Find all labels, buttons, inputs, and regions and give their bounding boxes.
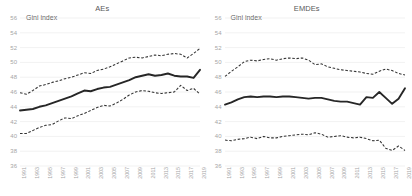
- y-tick-label: 36: [215, 163, 222, 169]
- series-line-solid: [20, 70, 200, 111]
- chart-panel-emdes: EMDEs Gini index 3638404244464850525456 …: [205, 0, 410, 196]
- chart-svg-emdes: [225, 18, 405, 166]
- series-line-solid: [225, 88, 405, 104]
- series-line-dashed: [225, 133, 405, 151]
- y-tick-label: 38: [215, 148, 222, 154]
- y-tick-label: 54: [10, 30, 17, 36]
- y-tick-label: 56: [10, 15, 17, 21]
- x-tick-label: 2005: [112, 167, 117, 179]
- x-tick-label: 2017: [394, 167, 399, 179]
- chart-svg-aes: [20, 18, 200, 166]
- x-tick-label: 1995: [252, 167, 257, 179]
- y-axis-labels-aes: 3638404244464850525456: [0, 18, 18, 166]
- x-tick-label: 1995: [48, 167, 53, 179]
- x-tick-label: 2009: [138, 167, 143, 179]
- y-tick-label: 42: [215, 119, 222, 125]
- y-tick-label: 52: [10, 45, 17, 51]
- x-tick-label: 2011: [355, 167, 360, 178]
- x-tick-label: 2015: [176, 167, 181, 179]
- y-tick-label: 50: [10, 59, 17, 65]
- y-tick-label: 54: [215, 30, 222, 36]
- x-tick-label: 2003: [99, 167, 104, 179]
- x-tick-label: 1999: [74, 167, 79, 179]
- x-tick-label: 1993: [35, 167, 40, 179]
- plot-area-aes: [20, 18, 200, 166]
- x-tick-label: 1993: [240, 167, 245, 179]
- x-tick-label: 1999: [278, 167, 283, 179]
- y-tick-label: 36: [10, 163, 17, 169]
- chart-title-emdes: EMDEs: [205, 4, 410, 13]
- y-tick-label: 52: [215, 45, 222, 51]
- x-axis-labels-aes: 1991199319951997199920012003200520072009…: [20, 167, 200, 196]
- x-tick-label: 1991: [22, 167, 27, 179]
- x-tick-label: 1997: [61, 167, 66, 179]
- x-tick-label: 2013: [164, 167, 169, 179]
- y-tick-label: 44: [10, 104, 17, 110]
- x-tick-label: 2003: [304, 167, 309, 179]
- x-axis-labels-emdes: 1991199319951997199920012003200520072009…: [225, 167, 405, 196]
- y-tick-label: 48: [215, 74, 222, 80]
- y-tick-label: 48: [10, 74, 17, 80]
- y-axis-labels-emdes: 3638404244464850525456: [205, 18, 223, 166]
- x-tick-label: 2007: [330, 167, 335, 179]
- x-tick-label: 2001: [291, 167, 296, 179]
- y-tick-label: 38: [10, 148, 17, 154]
- x-tick-label: 2013: [368, 167, 373, 179]
- x-tick-label: 2011: [151, 167, 156, 178]
- y-tick-label: 40: [215, 133, 222, 139]
- y-tick-label: 42: [10, 119, 17, 125]
- x-tick-label: 2015: [381, 167, 386, 179]
- x-tick-label: 1991: [227, 167, 232, 179]
- chart-panel-aes: AEs Gini index 3638404244464850525456 19…: [0, 0, 205, 196]
- y-tick-label: 46: [10, 89, 17, 95]
- y-tick-label: 44: [215, 104, 222, 110]
- y-tick-label: 40: [10, 133, 17, 139]
- x-tick-label: 2009: [342, 167, 347, 179]
- y-tick-label: 56: [215, 15, 222, 21]
- x-tick-label: 2017: [189, 167, 194, 179]
- y-tick-label: 46: [215, 89, 222, 95]
- x-tick-label: 1997: [265, 167, 270, 179]
- series-line-dashed: [20, 85, 200, 133]
- x-tick-label: 2007: [125, 167, 130, 179]
- x-tick-label: 2005: [317, 167, 322, 179]
- plot-area-emdes: [225, 18, 405, 166]
- chart-title-aes: AEs: [0, 4, 205, 13]
- x-tick-label: 2019: [407, 167, 412, 179]
- series-line-dashed: [225, 58, 405, 77]
- y-tick-label: 50: [215, 59, 222, 65]
- x-tick-label: 2001: [86, 167, 91, 179]
